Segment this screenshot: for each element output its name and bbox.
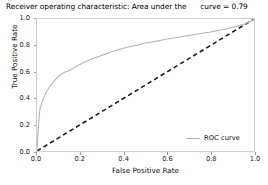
x-tick-mark xyxy=(211,152,212,155)
x-tick-label: 0.6 xyxy=(156,155,178,163)
y-tick-mark xyxy=(34,45,37,46)
x-axis-label: False Positive Rate xyxy=(36,166,255,175)
x-tick-mark xyxy=(167,152,168,155)
y-axis-label: True Positive Rate xyxy=(10,7,19,107)
chart-legend: ROC curve xyxy=(186,134,240,142)
x-tick-label: 0.8 xyxy=(200,155,222,163)
legend-line-sample-roc-curve xyxy=(186,138,200,139)
x-tick-label: 0.0 xyxy=(25,155,47,163)
x-tick-mark xyxy=(124,152,125,155)
chart-title: Receiver operating characteristic: Area … xyxy=(6,2,264,12)
y-tick-label: 0.2 xyxy=(8,121,30,129)
x-tick-mark xyxy=(36,152,37,155)
x-tick-label: 1.0 xyxy=(244,155,266,163)
x-tick-mark xyxy=(255,152,256,155)
x-tick-label: 0.4 xyxy=(113,155,135,163)
y-tick-mark xyxy=(34,18,37,19)
x-tick-label: 0.2 xyxy=(69,155,91,163)
roc-chart-figure: Receiver operating characteristic: Area … xyxy=(0,0,268,185)
y-tick-mark xyxy=(34,72,37,73)
legend-label-roc-curve: ROC curve xyxy=(204,134,240,142)
x-tick-mark xyxy=(80,152,81,155)
y-tick-mark xyxy=(34,125,37,126)
chance-diagonal-line xyxy=(37,19,254,151)
plot-svg xyxy=(37,19,254,151)
y-tick-mark xyxy=(34,98,37,99)
plot-area xyxy=(36,18,255,152)
